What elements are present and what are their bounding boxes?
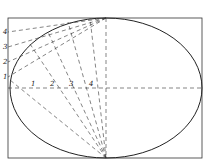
- left-label-1: 1: [3, 73, 7, 81]
- left-label-3: 3: [3, 43, 8, 51]
- left-label-2: 2: [2, 58, 8, 66]
- axis-label-2: 2: [49, 80, 55, 88]
- ellipse-construction-diagram: 1 2 3 4 1 2 3 4: [0, 0, 204, 163]
- axis-division-labels: 1 2 3 4: [31, 80, 93, 88]
- left-label-4: 4: [2, 28, 7, 36]
- axis-label-4: 4: [88, 80, 93, 88]
- axis-label-3: 3: [69, 80, 74, 88]
- left-division-labels: 1 2 3 4: [2, 28, 8, 81]
- axis-label-1: 1: [31, 80, 35, 88]
